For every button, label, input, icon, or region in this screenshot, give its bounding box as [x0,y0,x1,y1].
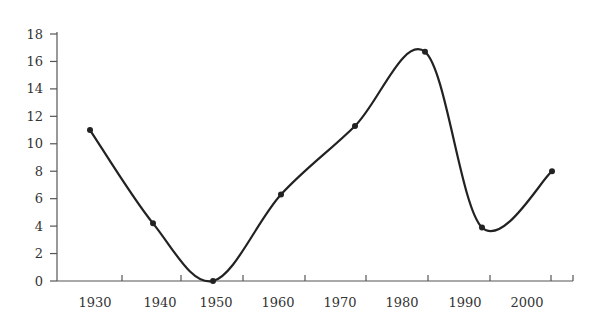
data-point-1960 [278,192,284,198]
series-line [90,49,552,281]
y-tick-label: 18 [26,27,43,42]
data-point-1930 [87,127,93,133]
data-point-1940 [150,220,156,226]
y-tick-label: 8 [35,164,43,179]
x-tick-label: 1950 [199,295,232,310]
x-tick-label: 1960 [261,295,294,310]
x-tick-label: 1930 [78,295,111,310]
x-tick-label: 1940 [143,295,176,310]
line-chart: 024681012141618 193019401950196019701980… [0,0,602,335]
x-tick-label: 1970 [323,295,356,310]
y-axis: 024681012141618 [26,27,57,289]
data-point-1950 [210,278,216,284]
x-axis: 19301940195019601970198019902000 [57,275,573,310]
y-tick-label: 16 [26,54,43,69]
y-tick-label: 12 [26,109,43,124]
x-tick-label: 2000 [510,295,543,310]
y-tick-label: 14 [26,81,43,96]
y-tick-label: 4 [35,219,43,234]
x-tick-label: 1980 [385,295,418,310]
y-tick-label: 0 [35,274,43,289]
data-point-2000 [549,168,555,174]
data-point-1970 [352,123,358,129]
x-tick-label: 1990 [448,295,481,310]
y-tick-label: 2 [35,246,43,261]
y-tick-label: 10 [26,136,43,151]
y-tick-label: 6 [35,191,43,206]
data-point-1980 [422,49,428,55]
data-points [87,49,555,284]
data-point-1990 [479,224,485,230]
